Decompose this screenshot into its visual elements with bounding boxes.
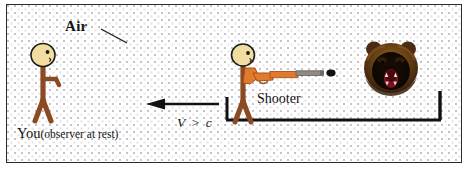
rifle xyxy=(243,68,324,84)
label-observer: You(observer at rest) xyxy=(17,126,118,141)
label-observer-note: (observer at rest) xyxy=(41,128,119,140)
leftward-motion-arrow xyxy=(146,99,219,110)
bullet xyxy=(326,70,335,77)
shooter-head xyxy=(232,44,255,66)
stick-figure-observer xyxy=(31,44,59,122)
diagram-frame: Air You(observer at rest) Shooter V > c xyxy=(6,4,462,163)
air-leader-line xyxy=(101,29,127,43)
label-air: Air xyxy=(65,19,88,34)
label-velocity: V > c xyxy=(177,116,213,130)
label-shooter: Shooter xyxy=(257,92,301,106)
physics-diagram: Air You(observer at rest) Shooter V > c xyxy=(0,0,471,170)
observer-head xyxy=(31,44,55,67)
label-observer-main: You xyxy=(17,125,41,141)
grizzly-bear-head xyxy=(364,42,418,97)
